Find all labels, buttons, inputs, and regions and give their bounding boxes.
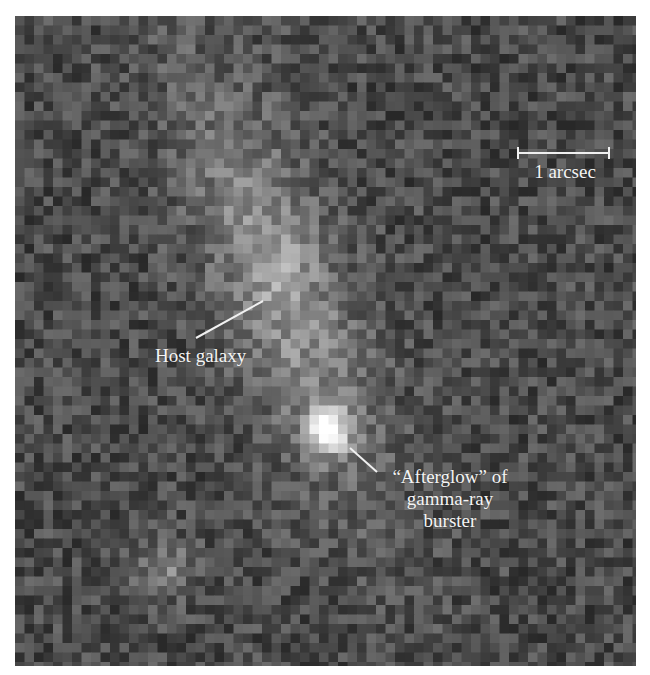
- scale-bar-right-tick: [608, 147, 610, 159]
- scale-bar: [517, 147, 610, 159]
- host-galaxy-label: Host galaxy: [155, 345, 246, 367]
- host-galaxy-leader-line: [196, 301, 263, 338]
- afterglow-label-line-2: gamma-ray: [375, 488, 525, 510]
- scale-bar-label: 1 arcsec: [515, 161, 615, 183]
- afterglow-label-line-3: burster: [375, 510, 525, 532]
- astronomical-image: 1 arcsec Host galaxy “Afterglow” of gamm…: [15, 16, 636, 666]
- annotation-leader-lines: [15, 16, 636, 666]
- scale-bar-line: [517, 152, 610, 154]
- afterglow-label: “Afterglow” of gamma-ray burster: [375, 466, 525, 532]
- afterglow-label-line-1: “Afterglow” of: [375, 466, 525, 488]
- scale-bar-left-tick: [517, 147, 519, 159]
- afterglow-leader-line: [350, 448, 377, 472]
